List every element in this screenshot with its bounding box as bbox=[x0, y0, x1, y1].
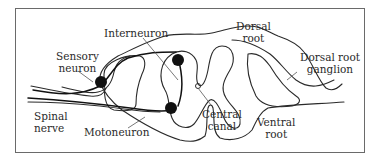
label-central-canal: Central canal bbox=[202, 108, 242, 132]
interneuron-cell-body bbox=[172, 54, 184, 66]
sensory-neuron-cell-body bbox=[95, 76, 107, 88]
label-interneuron: Interneuron bbox=[104, 27, 168, 39]
spinal-cord-diagram: Interneuron Sensory neuron Spinal nerve … bbox=[0, 0, 381, 162]
spinal-cord-illustration bbox=[0, 0, 381, 162]
leader-central-canal bbox=[198, 88, 211, 105]
motoneuron-cell-body bbox=[165, 102, 177, 114]
label-dorsal-root: Dorsal root bbox=[236, 20, 271, 44]
label-sensory-neuron: Sensory neuron bbox=[56, 50, 99, 74]
label-dorsal-root-ganglion: Dorsal root ganglion bbox=[300, 51, 360, 75]
label-motoneuron: Motoneuron bbox=[84, 126, 149, 138]
label-ventral-root: Ventral root bbox=[257, 116, 295, 140]
dorsal-root-ganglion bbox=[247, 54, 299, 107]
label-spinal-nerve: Spinal nerve bbox=[34, 110, 68, 134]
